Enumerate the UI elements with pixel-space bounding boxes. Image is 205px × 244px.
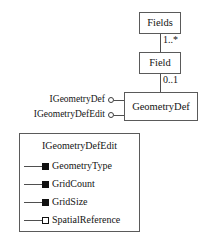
interface-panel-title: IGeometryDefEdit (20, 141, 139, 151)
multiplicity-label-fields-field: 1..* (163, 35, 178, 45)
class-box-field[interactable]: Field (139, 52, 181, 74)
member-label: GridCount (52, 179, 95, 189)
association-line-fields-field (160, 34, 161, 52)
interface-label-igeometrydef: IGeometryDef (50, 95, 105, 105)
member-label: SpatialReference (52, 215, 120, 225)
interface-member-row[interactable]: SpatialReference (20, 211, 139, 229)
interface-lollipop-igeometrydefedit[interactable]: IGeometryDefEdit (16, 109, 124, 121)
member-label: GridSize (52, 197, 88, 207)
member-stem-line (24, 166, 42, 167)
class-name-field: Field (149, 57, 171, 68)
property-hollow-square-icon (42, 217, 49, 224)
class-name-geometrydef: GeometryDef (132, 101, 190, 112)
class-box-geometrydef[interactable]: GeometryDef (124, 92, 198, 121)
interface-member-panel: IGeometryDefEdit GeometryType GridCount … (19, 133, 140, 232)
property-filled-square-icon (42, 181, 49, 188)
member-stem-line (24, 202, 42, 203)
member-label: GeometryType (52, 161, 112, 171)
interface-member-row[interactable]: GridCount (20, 175, 139, 193)
interface-label-igeometrydefedit: IGeometryDefEdit (34, 110, 105, 120)
multiplicity-label-field-geometrydef: 0..1 (163, 75, 178, 85)
property-filled-square-icon (42, 199, 49, 206)
interface-stem-line (114, 100, 124, 101)
interface-stem-line (114, 115, 124, 116)
class-name-fields: Fields (147, 17, 173, 28)
property-filled-square-icon (42, 163, 49, 170)
member-stem-line (24, 220, 42, 221)
member-stem-line (24, 184, 42, 185)
uml-class-diagram: Fields 1..* Field 0..1 GeometryDef IGeom… (0, 0, 205, 244)
interface-lollipop-igeometrydef[interactable]: IGeometryDef (30, 94, 124, 106)
interface-member-row[interactable]: GeometryType (20, 157, 139, 175)
interface-member-row[interactable]: GridSize (20, 193, 139, 211)
class-box-fields[interactable]: Fields (139, 12, 181, 34)
association-line-field-geometrydef (160, 74, 161, 92)
